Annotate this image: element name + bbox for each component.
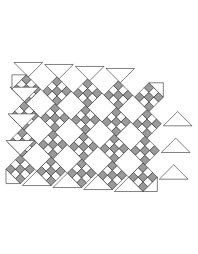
quilt-pieces xyxy=(6,62,192,191)
setting-triangle xyxy=(45,64,74,78)
setting-triangle xyxy=(75,66,104,80)
setting-triangle xyxy=(106,68,135,82)
setting-triangle xyxy=(163,111,192,125)
setting-triangle xyxy=(161,138,190,152)
quilt-assembly-diagram xyxy=(0,0,198,254)
setting-triangle xyxy=(159,165,188,179)
